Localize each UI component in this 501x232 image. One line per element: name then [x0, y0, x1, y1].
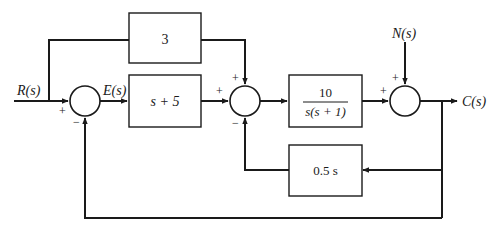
rate-feedback-gain: 0.5 s — [313, 163, 338, 178]
controller-transfer-function: s + 5 — [151, 94, 180, 109]
sum2-top-plus-sign: + — [232, 71, 239, 85]
summing-junction-3 — [390, 86, 420, 116]
feedforward-gain: 3 — [162, 32, 169, 47]
sum1-plus-sign: + — [59, 104, 66, 118]
rate-feedback-output-wire — [245, 118, 289, 170]
controller-block: s + 5 — [129, 75, 201, 127]
disturbance-signal-label: N(s) — [391, 26, 416, 42]
input-signal-label: R(s) — [16, 83, 41, 99]
unity-feedback-wire — [85, 118, 442, 218]
sum2-minus-sign: − — [232, 116, 239, 130]
plant-denominator: s(s + 1) — [305, 104, 346, 119]
plant-numerator: 10 — [319, 85, 332, 100]
sum3-left-plus-sign: + — [380, 84, 387, 98]
plant-block: 10 s(s + 1) — [289, 75, 362, 127]
summing-junction-2 — [230, 86, 260, 116]
rate-feedback-block: 0.5 s — [289, 145, 362, 196]
sum1-minus-sign: − — [73, 115, 80, 129]
summing-junction-1 — [70, 86, 100, 116]
sum3-top-plus-sign: + — [392, 71, 399, 85]
block-diagram: 3 s + 5 10 s(s + 1) 0.5 s + − + + − + + … — [0, 0, 501, 232]
feedforward-block: 3 — [129, 13, 201, 63]
error-signal-label: E(s) — [102, 83, 127, 99]
output-signal-label: C(s) — [462, 94, 486, 110]
sum2-left-plus-sign: + — [216, 84, 223, 98]
